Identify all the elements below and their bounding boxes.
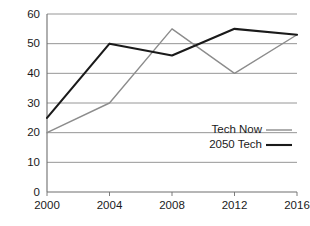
legend-label-2050-tech: 2050 Tech (209, 138, 262, 150)
y-tick-label-40: 40 (27, 67, 40, 79)
y-tick-label-20: 20 (27, 126, 40, 138)
x-tick-label-2016: 2016 (284, 199, 310, 211)
data-series-group (47, 29, 297, 133)
y-tick-label-10: 10 (27, 156, 40, 168)
y-tick-label-30: 30 (27, 97, 40, 109)
chart-canvas: 0102030405060 20002004200820122016 Tech … (0, 0, 310, 226)
x-axis-tick-labels: 20002004200820122016 (34, 199, 310, 211)
x-axis-ticks (47, 192, 297, 196)
series-line-tech-now (47, 29, 297, 133)
y-tick-label-50: 50 (27, 37, 40, 49)
chart-legend: Tech Now2050 Tech (209, 123, 292, 150)
x-tick-label-2008: 2008 (159, 199, 185, 211)
x-tick-label-2004: 2004 (97, 199, 123, 211)
legend-label-tech-now: Tech Now (212, 123, 263, 135)
line-chart: 0102030405060 20002004200820122016 Tech … (0, 0, 310, 226)
gridlines-group (47, 14, 297, 192)
x-tick-label-2012: 2012 (222, 199, 248, 211)
y-axis-tick-labels: 0102030405060 (27, 8, 40, 198)
y-tick-label-60: 60 (27, 8, 40, 20)
x-tick-label-2000: 2000 (34, 199, 60, 211)
y-tick-label-0: 0 (34, 186, 40, 198)
